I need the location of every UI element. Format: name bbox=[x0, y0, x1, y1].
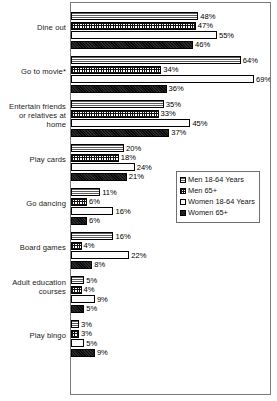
bar-row: 5% bbox=[71, 276, 270, 284]
bar-value-label: 48% bbox=[198, 12, 215, 21]
bar-value-label: 4% bbox=[82, 285, 95, 294]
bar-value-label: 6% bbox=[87, 216, 100, 225]
bar-value-label: 36% bbox=[167, 84, 184, 93]
bar-crosshatch-grid bbox=[71, 22, 196, 30]
bar-row: 5% bbox=[71, 305, 270, 313]
bar-fine-dots bbox=[71, 75, 254, 83]
bar-value-label: 16% bbox=[113, 232, 130, 241]
bar-row: 6% bbox=[71, 198, 270, 206]
bar-horizontal-lines bbox=[71, 144, 124, 152]
category-label: Entertain friends or relatives at home bbox=[0, 102, 66, 129]
bar-crosshatch-grid bbox=[71, 330, 79, 338]
bar-value-label: 11% bbox=[100, 188, 117, 197]
bar-horizontal-lines bbox=[71, 56, 241, 64]
bar-crosshatch-grid bbox=[71, 110, 159, 118]
bar-row: 11% bbox=[71, 188, 270, 196]
bar-solid-black bbox=[71, 41, 193, 49]
category-label: Dine out bbox=[0, 23, 66, 32]
category-label: Adult education courses bbox=[0, 278, 66, 296]
bar-horizontal-lines bbox=[71, 188, 100, 196]
bar-fine-dots bbox=[71, 251, 129, 259]
plot-area: Men 18-64 YearsMen 65+Women 18-64 YearsW… bbox=[70, 2, 271, 395]
bar-value-label: 8% bbox=[92, 260, 105, 269]
bar-value-label: 3% bbox=[79, 320, 92, 329]
bar-row: 55% bbox=[71, 31, 270, 39]
bar-solid-black bbox=[71, 217, 87, 225]
bar-row: 9% bbox=[71, 349, 270, 357]
bar-solid-black bbox=[71, 129, 169, 137]
bar-horizontal-lines bbox=[71, 100, 164, 108]
bar-row: 37% bbox=[71, 129, 270, 137]
bar-row: 48% bbox=[71, 12, 270, 20]
bar-crosshatch-grid bbox=[71, 198, 87, 206]
bar-row: 16% bbox=[71, 232, 270, 240]
bar-crosshatch-grid bbox=[71, 154, 119, 162]
bar-row: 4% bbox=[71, 242, 270, 250]
category-label: Go to movie* bbox=[0, 67, 66, 76]
bar-solid-black bbox=[71, 261, 92, 269]
bar-row: 47% bbox=[71, 22, 270, 30]
bar-solid-black bbox=[71, 173, 127, 181]
bar-horizontal-lines bbox=[71, 12, 198, 20]
bar-solid-black bbox=[71, 349, 95, 357]
bar-row: 36% bbox=[71, 85, 270, 93]
bar-row: 18% bbox=[71, 154, 270, 162]
bar-fine-dots bbox=[71, 295, 95, 303]
bar-horizontal-lines bbox=[71, 320, 79, 328]
bar-value-label: 46% bbox=[193, 40, 210, 49]
bar-value-label: 69% bbox=[254, 75, 271, 84]
bar-chart: Dine outGo to movie*Entertain friends or… bbox=[0, 0, 277, 401]
bar-value-label: 33% bbox=[159, 109, 176, 118]
bar-crosshatch-grid bbox=[71, 242, 82, 250]
bar-row: 35% bbox=[71, 100, 270, 108]
bar-value-label: 55% bbox=[217, 31, 234, 40]
bar-fine-dots bbox=[71, 119, 190, 127]
bar-crosshatch-grid bbox=[71, 286, 82, 294]
bar-row: 8% bbox=[71, 261, 270, 269]
bar-value-label: 64% bbox=[241, 56, 258, 65]
bar-row: 24% bbox=[71, 163, 270, 171]
bar-value-label: 47% bbox=[196, 21, 213, 30]
bar-value-label: 21% bbox=[127, 172, 144, 181]
bar-value-label: 34% bbox=[161, 65, 178, 74]
category-label: Go dancing bbox=[0, 199, 66, 208]
bar-value-label: 5% bbox=[84, 304, 97, 313]
bar-row: 20% bbox=[71, 144, 270, 152]
bar-row: 16% bbox=[71, 207, 270, 215]
bar-row: 22% bbox=[71, 251, 270, 259]
bar-value-label: 22% bbox=[129, 251, 146, 260]
bar-row: 9% bbox=[71, 295, 270, 303]
bar-value-label: 3% bbox=[79, 329, 92, 338]
bar-value-label: 45% bbox=[190, 119, 207, 128]
bar-row: 3% bbox=[71, 320, 270, 328]
bar-row: 69% bbox=[71, 75, 270, 83]
bar-value-label: 37% bbox=[169, 128, 186, 137]
bar-row: 5% bbox=[71, 339, 270, 347]
category-label: Play cards bbox=[0, 155, 66, 164]
bar-value-label: 18% bbox=[119, 153, 136, 162]
bar-fine-dots bbox=[71, 339, 84, 347]
bar-value-label: 5% bbox=[84, 276, 97, 285]
bar-horizontal-lines bbox=[71, 276, 84, 284]
bar-value-label: 4% bbox=[82, 241, 95, 250]
bar-horizontal-lines bbox=[71, 232, 113, 240]
bar-value-label: 24% bbox=[135, 163, 152, 172]
bar-fine-dots bbox=[71, 163, 135, 171]
bar-row: 46% bbox=[71, 41, 270, 49]
category-label: Play bingo bbox=[0, 331, 66, 340]
bar-row: 45% bbox=[71, 119, 270, 127]
bar-value-label: 9% bbox=[95, 348, 108, 357]
bar-row: 34% bbox=[71, 66, 270, 74]
bar-value-label: 20% bbox=[124, 144, 141, 153]
bar-value-label: 9% bbox=[95, 295, 108, 304]
bar-row: 4% bbox=[71, 286, 270, 294]
bar-crosshatch-grid bbox=[71, 66, 161, 74]
bar-value-label: 35% bbox=[164, 100, 181, 109]
bar-value-label: 5% bbox=[84, 339, 97, 348]
bar-fine-dots bbox=[71, 31, 217, 39]
category-axis: Dine outGo to movie*Entertain friends or… bbox=[0, 0, 70, 401]
bar-row: 6% bbox=[71, 217, 270, 225]
bar-value-label: 6% bbox=[87, 197, 100, 206]
bar-fine-dots bbox=[71, 207, 113, 215]
bar-row: 33% bbox=[71, 110, 270, 118]
